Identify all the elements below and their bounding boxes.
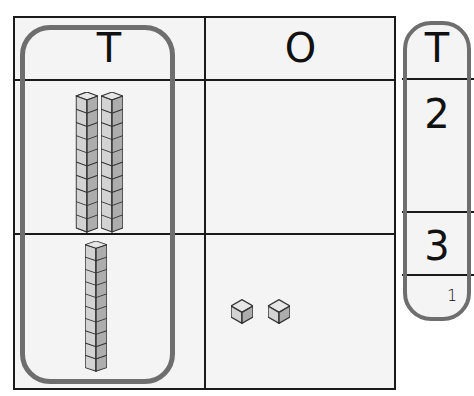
carry-digit: 1 (440, 288, 464, 304)
digit-column-header: T (403, 28, 471, 68)
column-divider (204, 16, 206, 390)
ones-header: O (205, 28, 396, 68)
tens-rod-2 (101, 92, 123, 235)
digit-tens-row-2: 3 (403, 226, 471, 266)
ones-cube-1 (231, 299, 253, 324)
ones-cube-2 (268, 299, 290, 324)
tens-rod-3 (85, 241, 107, 374)
tens-rod-1 (76, 92, 98, 235)
digit-tens-row-1: 2 (403, 94, 471, 134)
